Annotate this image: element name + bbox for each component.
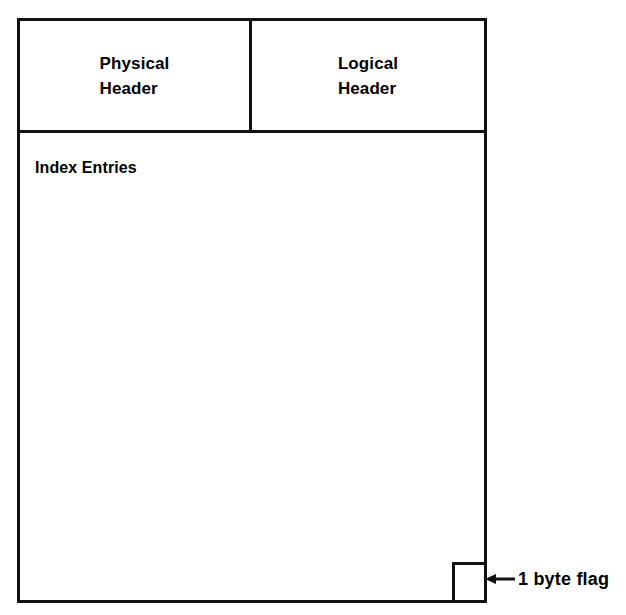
header-row: Physical Header Logical Header <box>20 21 484 133</box>
logical-header-cell: Logical Header <box>252 21 484 130</box>
index-block-frame: Physical Header Logical Header Index Ent… <box>17 18 487 603</box>
index-entries-label: Index Entries <box>35 158 137 177</box>
physical-header-cell: Physical Header <box>20 21 252 130</box>
one-byte-flag-annotation: 1 byte flag <box>484 570 626 588</box>
logical-header-label: Logical Header <box>338 51 398 101</box>
one-byte-flag-box <box>452 562 487 603</box>
diagram-canvas: Physical Header Logical Header Index Ent… <box>0 0 626 615</box>
one-byte-flag-label: 1 byte flag <box>518 568 609 590</box>
physical-header-label: Physical Header <box>100 51 170 101</box>
index-entries-region: Index Entries <box>20 133 484 600</box>
